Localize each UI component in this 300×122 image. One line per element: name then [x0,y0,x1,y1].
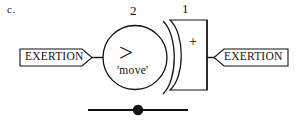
exertion-right-label: EXERTION [224,50,282,62]
port-number-label-2: 2 [130,3,137,19]
operator-circle [103,26,167,90]
plus-sign-label: + [189,34,197,50]
figure-label: c. [7,3,16,15]
figure-canvas: c. 2 1 > 'move' + EXERTION EXERTION [0,0,300,122]
junction-dot [133,105,143,115]
move-name-label: 'move' [117,64,149,76]
bracket-block-outline [170,20,207,90]
port-number-label-1: 1 [182,1,189,17]
greater-than-operator-icon: > [119,40,133,65]
exertion-left-label: EXERTION [25,50,83,62]
